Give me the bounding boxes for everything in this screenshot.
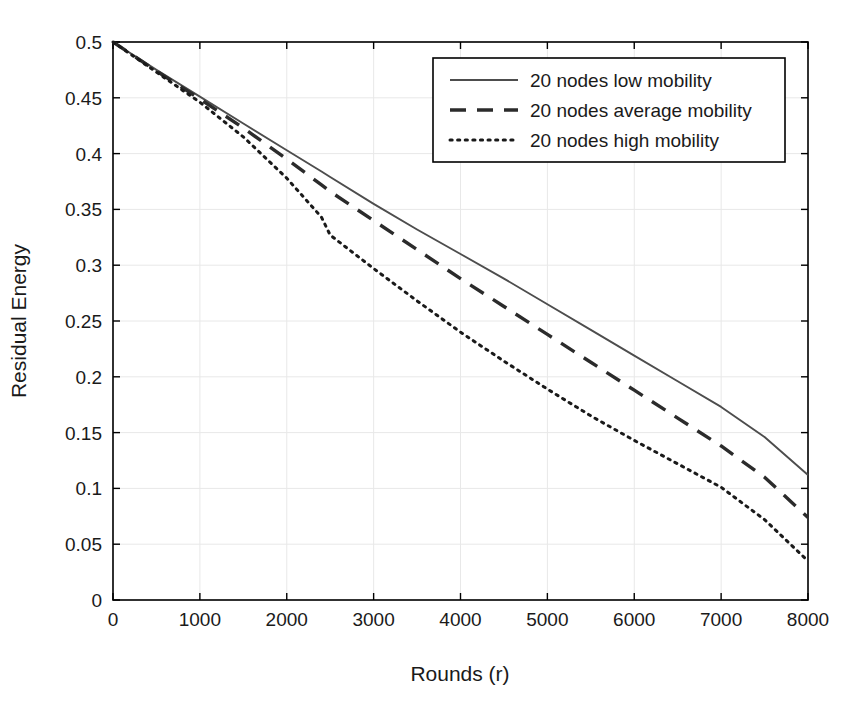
legend-label-1: 20 nodes average mobility: [530, 100, 752, 121]
x-tick-label: 1000: [179, 609, 221, 630]
y-tick-label: 0.4: [76, 144, 103, 165]
legend-label-0: 20 nodes low mobility: [530, 70, 712, 91]
x-tick-label: 6000: [613, 609, 655, 630]
x-axis-tick-labels: 010002000300040005000600070008000: [108, 609, 829, 630]
x-tick-label: 0: [108, 609, 119, 630]
x-axis-label: Rounds (r): [410, 662, 509, 685]
y-axis-label: Residual Energy: [7, 243, 30, 398]
x-tick-label: 8000: [787, 609, 829, 630]
y-tick-label: 0.35: [65, 199, 102, 220]
x-tick-label: 3000: [352, 609, 394, 630]
x-tick-label: 2000: [266, 609, 308, 630]
y-tick-label: 0.1: [76, 478, 102, 499]
chart-legend: 20 nodes low mobility20 nodes average mo…: [433, 58, 785, 162]
x-tick-label: 7000: [700, 609, 742, 630]
chart-figure: 010002000300040005000600070008000 00.050…: [0, 0, 856, 712]
x-tick-label: 4000: [439, 609, 481, 630]
residual-energy-line-chart: 010002000300040005000600070008000 00.050…: [0, 0, 856, 712]
y-tick-label: 0.3: [76, 255, 102, 276]
x-tick-label: 5000: [526, 609, 568, 630]
y-tick-label: 0.25: [65, 311, 102, 332]
y-tick-label: 0.45: [65, 88, 102, 109]
y-tick-label: 0.15: [65, 423, 102, 444]
y-tick-label: 0.05: [65, 534, 102, 555]
y-tick-label: 0: [91, 590, 102, 611]
legend-label-2: 20 nodes high mobility: [530, 130, 720, 151]
y-tick-label: 0.2: [76, 367, 102, 388]
y-tick-label: 0.5: [76, 32, 102, 53]
